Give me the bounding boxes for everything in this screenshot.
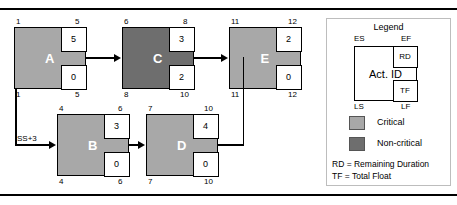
node-e-es: 11 (231, 17, 239, 26)
legend-swatch-noncritical-label: Non-critical (377, 138, 422, 148)
node-b-ef: 6 (118, 104, 122, 113)
link-a-b-arrowhead (49, 141, 56, 149)
link-d-e-vline (243, 57, 245, 145)
link-b-d-arrowhead (138, 141, 145, 149)
node-c-ef: 8 (183, 17, 187, 26)
link-a-b-hline (15, 144, 51, 146)
link-a-c-line (86, 57, 116, 59)
node-d[interactable]: D 4 0 (146, 114, 218, 176)
node-a-ef: 5 (75, 17, 79, 26)
node-a-rd: 5 (61, 27, 87, 52)
node-e-ef: 12 (288, 17, 297, 26)
node-d-ls: 7 (148, 177, 152, 186)
node-e-lf: 12 (288, 90, 297, 99)
link-c-e-arrowhead (221, 54, 228, 62)
node-b[interactable]: B 3 0 (57, 114, 129, 176)
legend-node-template: Act. ID RD TF (354, 46, 417, 101)
node-a[interactable]: A 5 0 (14, 27, 86, 89)
link-c-e-line (194, 57, 223, 59)
node-b-lf: 6 (118, 177, 122, 186)
node-a-ls: 1 (16, 90, 20, 99)
node-b-rd: 3 (104, 114, 130, 139)
node-e-rd: 2 (276, 27, 302, 52)
node-b-tf: 0 (104, 152, 130, 177)
legend-swatch-noncritical (349, 137, 365, 151)
legend-footnote-rd: RD = Remaining Duration (332, 159, 429, 169)
node-c[interactable]: C 3 2 (122, 27, 194, 89)
node-d-lf: 10 (204, 177, 213, 186)
node-e-ls: 11 (231, 90, 239, 99)
bottom-rule (0, 194, 457, 196)
link-a-b-lag-label: SS+3 (17, 134, 37, 143)
node-c-ls: 8 (124, 90, 128, 99)
node-c-rd: 3 (169, 27, 195, 52)
legend-es-label: ES (354, 34, 365, 43)
node-c-es: 6 (124, 17, 128, 26)
node-b-es: 4 (59, 104, 63, 113)
node-e[interactable]: E 2 0 (229, 27, 301, 89)
node-d-ef: 10 (204, 104, 213, 113)
node-d-tf: 0 (193, 152, 219, 177)
legend-title: Legend (327, 22, 450, 32)
link-a-c-arrowhead (114, 54, 121, 62)
node-c-lf: 10 (180, 90, 189, 99)
legend-footnote-tf: TF = Total Float (332, 171, 391, 181)
node-a-lf: 5 (75, 90, 79, 99)
legend-rd-label: RD (393, 46, 418, 68)
node-d-rd: 4 (193, 114, 219, 139)
legend-ls-label: LS (354, 102, 364, 111)
node-a-tf: 0 (61, 65, 87, 90)
node-b-ls: 4 (59, 177, 63, 186)
legend-tf-label: TF (393, 80, 418, 102)
legend-panel: Legend ES EF Act. ID RD TF LS LF Critica… (326, 18, 451, 186)
node-a-es: 1 (16, 17, 20, 26)
legend-lf-label: LF (401, 102, 410, 111)
legend-swatch-critical (349, 116, 365, 130)
node-c-tf: 2 (169, 65, 195, 90)
link-d-e-hline (218, 144, 244, 146)
legend-ef-label: EF (401, 34, 411, 43)
network-diagram-figure: 1 5 A 5 0 1 5 6 8 C 3 2 8 10 11 12 E 2 0… (0, 0, 457, 205)
node-d-es: 7 (148, 104, 152, 113)
legend-swatch-critical-label: Critical (377, 117, 405, 127)
top-rule (0, 8, 457, 10)
node-e-tf: 0 (276, 65, 302, 90)
